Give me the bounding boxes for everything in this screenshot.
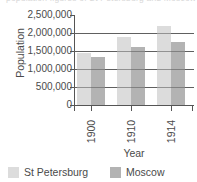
bar-chart-figure: Population 0500,0001,000,0001,500,0002,0… [0, 9, 197, 182]
y-axis-tick-labels: 0500,0001,000,0001,500,0002,000,0002,500… [14, 9, 72, 106]
x-axis-title: Year [74, 147, 194, 159]
bar [157, 26, 171, 105]
y-axis-tick-label: 1,000,000 [28, 64, 73, 74]
bar [171, 42, 185, 105]
x-axis-tick-mark [131, 106, 132, 111]
x-axis-tick-label: 1914 [166, 115, 177, 149]
x-axis-tick-label: 1900 [86, 115, 97, 149]
legend-label: Moscow [126, 166, 165, 178]
legend-entry[interactable]: Moscow [110, 164, 165, 180]
bar [91, 57, 105, 105]
bar [77, 53, 91, 105]
cutoff-caption-strip: population figures of St Petersburg and … [0, 0, 197, 9]
y-axis-tick-label: 500,000 [36, 82, 72, 92]
x-axis-tick-mark [91, 106, 92, 111]
x-axis-tick-mark [192, 106, 193, 111]
cutoff-caption-text: population figures of St Petersburg and … [6, 0, 196, 3]
plot-area [74, 15, 194, 106]
legend-swatch-icon [110, 167, 121, 178]
x-axis-tick-labels: 190019101914 [74, 112, 194, 148]
legend-swatch-icon [8, 167, 19, 178]
chart-legend: St PetersburgMoscow [0, 164, 197, 182]
x-axis-tick-mark [74, 106, 75, 111]
x-axis-tick-label: 1910 [126, 115, 137, 149]
y-axis-tick-label: 2,000,000 [28, 28, 73, 38]
legend-label: St Petersburg [24, 166, 88, 178]
y-axis-tick-label: 1,500,000 [28, 46, 73, 56]
y-axis-tick-label: 2,500,000 [28, 10, 73, 20]
bar-group-container [74, 15, 194, 106]
grid-tick-overlay [74, 33, 194, 34]
bar [131, 47, 145, 105]
legend-entry[interactable]: St Petersburg [8, 164, 88, 180]
bar [117, 37, 131, 105]
x-axis-tick-mark [171, 106, 172, 111]
